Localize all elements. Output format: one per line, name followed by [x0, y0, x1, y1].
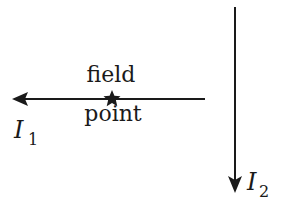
field-point-label-line2: point — [84, 101, 142, 126]
wire-i2 — [228, 7, 242, 193]
current-symbol-i1: I — [13, 116, 24, 144]
field-point-label-line1: field — [87, 62, 136, 87]
current-label-i1: I 1 — [13, 116, 38, 149]
current-subscript-i2: 2 — [259, 182, 269, 201]
current-wires-diagram: field point I 1 I 2 — [0, 0, 282, 210]
current-symbol-i2: I — [246, 168, 257, 196]
current-subscript-i1: 1 — [28, 130, 38, 149]
current-label-i2: I 2 — [246, 168, 269, 201]
